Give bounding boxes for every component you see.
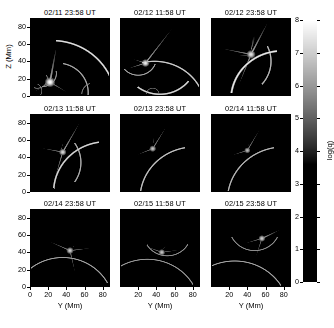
colorbar-tick-mark <box>317 217 320 218</box>
y-tick-mark <box>27 123 30 124</box>
y-tick-label: 80 <box>6 119 26 127</box>
colorbar-tick-mark <box>317 151 320 152</box>
panel-frame <box>211 114 291 192</box>
colorbar-tick-mark <box>300 20 303 21</box>
x-tick-label: 60 <box>165 291 185 299</box>
colorbar-tick-label: 3 <box>285 180 299 188</box>
x-tick-mark <box>156 287 157 290</box>
panel-0-2[interactable] <box>211 18 291 96</box>
y-tick-label: 60 <box>6 231 26 239</box>
x-tick-label: 20 <box>219 291 239 299</box>
y-tick-label: 40 <box>6 57 26 65</box>
x-axis-title: Y (Mm) <box>120 301 200 310</box>
colorbar-tick-mark <box>300 151 303 152</box>
colorbar-tick-label: 7 <box>285 49 299 57</box>
panel-0-0[interactable] <box>30 18 110 96</box>
x-tick-label: 40 <box>146 291 166 299</box>
y-tick-mark <box>27 61 30 62</box>
x-axis-title: Y (Mm) <box>211 301 291 310</box>
colorbar-tick-mark <box>317 282 320 283</box>
panel-2-2[interactable] <box>211 209 291 287</box>
colorbar-title: log(q) <box>325 121 334 181</box>
panel-frame <box>30 114 110 192</box>
y-tick-mark <box>27 96 30 97</box>
x-tick-label: 80 <box>183 291 203 299</box>
colorbar-tick-label: 5 <box>285 114 299 122</box>
colorbar-tick-mark <box>300 282 303 283</box>
x-tick-mark <box>247 287 248 290</box>
panel-frame <box>30 209 110 287</box>
panel-frame <box>120 114 200 192</box>
colorbar[interactable] <box>303 20 317 282</box>
colorbar-tick-mark <box>300 249 303 250</box>
panel-1-0[interactable] <box>30 114 110 192</box>
x-tick-mark <box>66 287 67 290</box>
x-tick-mark <box>266 287 267 290</box>
y-tick-mark <box>27 157 30 158</box>
x-tick-label: 20 <box>38 291 58 299</box>
y-tick-mark <box>27 175 30 176</box>
y-tick-mark <box>27 44 30 45</box>
y-tick-mark <box>27 252 30 253</box>
panel-frame <box>211 18 291 96</box>
y-tick-label: 80 <box>6 214 26 222</box>
x-tick-label: 40 <box>237 291 257 299</box>
x-tick-mark <box>138 287 139 290</box>
colorbar-tick-label: 0 <box>285 278 299 286</box>
x-tick-label: 20 <box>128 291 148 299</box>
colorbar-tick-mark <box>317 118 320 119</box>
x-tick-label: 0 <box>20 291 40 299</box>
colorbar-tick-mark <box>300 86 303 87</box>
panel-frame <box>120 18 200 96</box>
x-tick-label: 80 <box>93 291 113 299</box>
y-tick-label: 0 <box>6 92 26 100</box>
panel-0-1[interactable] <box>120 18 200 96</box>
x-tick-label: 60 <box>256 291 276 299</box>
panel-2-0[interactable] <box>30 209 110 287</box>
y-tick-mark <box>27 140 30 141</box>
colorbar-tick-mark <box>317 86 320 87</box>
x-tick-mark <box>48 287 49 290</box>
panel-1-1[interactable] <box>120 114 200 192</box>
colorbar-tick-mark <box>317 53 320 54</box>
y-tick-label: 0 <box>6 188 26 196</box>
panel-1-2[interactable] <box>211 114 291 192</box>
x-tick-label: 60 <box>75 291 95 299</box>
panel-frame <box>211 209 291 287</box>
y-tick-label: 60 <box>6 40 26 48</box>
panel-title: 02/15 11:58 UT <box>108 199 212 208</box>
colorbar-tick-label: 4 <box>285 147 299 155</box>
y-tick-label: 0 <box>6 283 26 291</box>
x-tick-mark <box>103 287 104 290</box>
x-tick-mark <box>193 287 194 290</box>
y-tick-mark <box>27 270 30 271</box>
x-tick-mark <box>284 287 285 290</box>
y-tick-mark <box>27 27 30 28</box>
x-tick-label: 80 <box>274 291 294 299</box>
panel-title: 02/13 23:58 UT <box>108 104 212 113</box>
colorbar-tick-mark <box>300 53 303 54</box>
x-axis-title: Y (Mm) <box>30 301 110 310</box>
panel-frame <box>120 209 200 287</box>
colorbar-tick-label: 1 <box>285 245 299 253</box>
colorbar-tick-mark <box>300 118 303 119</box>
y-tick-label: 20 <box>6 171 26 179</box>
y-tick-label: 20 <box>6 266 26 274</box>
x-tick-mark <box>85 287 86 290</box>
panel-title: 02/13 11:58 UT <box>18 104 122 113</box>
colorbar-tick-mark <box>317 249 320 250</box>
panel-2-1[interactable] <box>120 209 200 287</box>
colorbar-tick-label: 2 <box>285 213 299 221</box>
y-tick-mark <box>27 218 30 219</box>
y-tick-label: 40 <box>6 248 26 256</box>
colorbar-tick-mark <box>317 20 320 21</box>
colorbar-tick-label: 8 <box>285 16 299 24</box>
panel-title: 02/14 11:58 UT <box>199 104 303 113</box>
y-tick-label: 40 <box>6 153 26 161</box>
colorbar-tick-mark <box>300 217 303 218</box>
x-tick-mark <box>175 287 176 290</box>
colorbar-gradient <box>303 20 317 282</box>
y-tick-label: 20 <box>6 75 26 83</box>
panel-title: 02/11 23:58 UT <box>18 8 122 17</box>
